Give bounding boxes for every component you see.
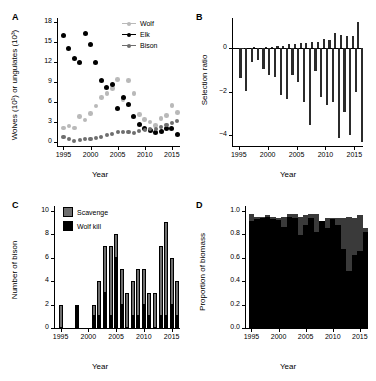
x-tick-label: 1995: [237, 333, 265, 340]
y-tick-label: 15: [24, 37, 52, 44]
bar-negative: [245, 48, 247, 90]
bar-negative: [297, 48, 299, 82]
data-point-bison: [137, 129, 141, 133]
bar-negative: [349, 48, 351, 135]
data-point-bison: [121, 130, 125, 134]
bar-negative: [343, 48, 345, 112]
bar-biomass-upper: [363, 228, 368, 232]
panel-c-legend: Scavenge Wolf kill: [63, 207, 108, 235]
y-tick-label: 8: [21, 229, 49, 236]
y-tick: [242, 258, 245, 259]
panel-a-y-axis-title: Wolves (10¹) or ungulates (10³): [10, 20, 19, 150]
x-tick: [116, 329, 117, 332]
bar-scavenge: [120, 269, 124, 304]
bar-negative: [239, 48, 241, 77]
bar-wolf-kill: [103, 293, 107, 328]
y-tick-label: 18: [24, 17, 52, 24]
data-point-bison: [175, 119, 179, 123]
data-point-wolf: [115, 77, 120, 82]
panel-b: B Selection ratio Year −4−20199520002005…: [188, 0, 376, 190]
x-tick-label: 2010: [130, 333, 158, 340]
x-tick: [88, 329, 89, 332]
bar-positive: [352, 36, 354, 49]
bar-positive: [346, 36, 348, 48]
data-point-bison: [61, 135, 65, 139]
scavenge-swatch-icon: [63, 207, 73, 217]
bar-negative: [286, 48, 288, 99]
y-tick-label: 9: [24, 77, 52, 84]
x-tick: [251, 329, 252, 332]
x-tick: [63, 147, 64, 150]
bar-negative: [303, 48, 305, 101]
bar-negative: [257, 48, 259, 59]
data-point-bison: [143, 128, 147, 132]
y-axis-line: [245, 206, 246, 328]
data-point-wolf: [164, 113, 169, 118]
data-point-elk: [121, 95, 126, 100]
data-point-elk: [77, 60, 82, 65]
bar-positive: [323, 39, 325, 48]
x-tick-label: 2000: [77, 151, 105, 158]
data-point-wolf: [126, 78, 131, 83]
data-point-wolf: [110, 86, 115, 91]
data-point-elk: [66, 46, 71, 51]
legend-item-bison: Bison: [122, 42, 158, 49]
data-point-bison: [148, 127, 152, 131]
data-point-bison: [67, 137, 71, 141]
bar-negative: [332, 48, 334, 101]
x-tick-label: 2000: [254, 151, 282, 158]
data-point-wolf: [61, 126, 66, 131]
panel-d-y-axis-title: Proportion of biomass: [198, 202, 207, 342]
panel-a-plot-area: [58, 18, 180, 146]
bar-positive: [300, 43, 302, 49]
y-tick-label: 0.4: [212, 276, 240, 283]
bar-scavenge: [147, 293, 151, 316]
x-tick-label: 2015: [158, 333, 186, 340]
data-point-elk: [169, 126, 174, 131]
x-tick: [279, 329, 280, 332]
bar-scavenge: [125, 293, 129, 328]
bar-negative: [314, 48, 316, 71]
data-point-bison: [72, 139, 76, 143]
data-point-elk: [61, 33, 66, 38]
data-point-wolf: [72, 126, 77, 131]
bar-scavenge: [103, 246, 107, 293]
x-tick: [333, 329, 334, 332]
y-tick: [54, 42, 57, 43]
y-tick: [229, 48, 232, 49]
data-point-bison: [164, 123, 168, 127]
bar-positive: [357, 22, 359, 48]
panel-a: A Wolves (10¹) or ungulates (10³) Year 0…: [0, 0, 188, 190]
y-tick: [51, 328, 54, 329]
bar-positive: [334, 33, 336, 48]
bar-positive: [340, 35, 342, 48]
panel-c-y-axis-title: Number of bison: [10, 210, 19, 330]
y-axis-line: [232, 18, 233, 146]
bar-scavenge: [159, 246, 163, 316]
data-point-bison: [154, 127, 158, 131]
bar-scavenge: [114, 234, 118, 257]
y-tick: [242, 305, 245, 306]
x-tick-label: 2010: [131, 151, 159, 158]
y-tick: [54, 122, 57, 123]
data-point-wolf: [170, 103, 175, 108]
bar-wolf-kill: [131, 316, 135, 328]
y-tick-label: 2: [21, 300, 49, 307]
y-tick-label: 12: [24, 57, 52, 64]
x-tick-label: 2005: [283, 151, 311, 158]
wolf-marker-icon: [122, 20, 136, 27]
y-tick: [51, 305, 54, 306]
y-tick: [229, 92, 232, 93]
data-point-elk: [115, 106, 120, 111]
y-tick: [51, 258, 54, 259]
x-tick-label: 2005: [104, 151, 132, 158]
bar-positive: [294, 44, 296, 49]
x-tick-label: 1995: [47, 333, 75, 340]
bar-scavenge: [92, 305, 96, 317]
legend-label-elk: Elk: [140, 31, 150, 38]
x-tick-label: 2015: [158, 151, 186, 158]
data-point-elk: [131, 114, 136, 119]
y-tick-label: 0: [199, 43, 227, 50]
y-tick: [54, 142, 57, 143]
bar-scavenge: [59, 305, 63, 328]
